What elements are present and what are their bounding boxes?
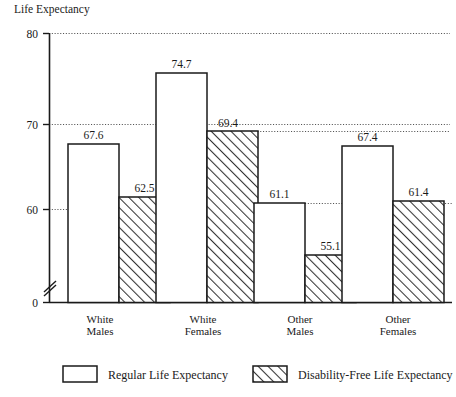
bar-label-white-males-regular: 67.6 bbox=[83, 129, 103, 141]
bar-white-females-regular[interactable] bbox=[156, 73, 207, 303]
bar-label-other-males-regular: 61.1 bbox=[269, 188, 289, 200]
legend-swatch-disability-free bbox=[253, 366, 287, 382]
bar-label-white-females-disability-free: 69.4 bbox=[218, 117, 238, 129]
category-label-line1-other-males: Other bbox=[287, 313, 312, 325]
x-axis-category-other-males: Other Males bbox=[287, 313, 314, 337]
bar-other-females-disability-free[interactable] bbox=[393, 201, 444, 303]
chart-canvas: Life Expectancy 80 70 60 0 67.6 bbox=[0, 0, 456, 397]
legend: Regular Life Expectancy Disability-Free … bbox=[63, 366, 453, 382]
x-axis-category-white-males: White Males bbox=[87, 313, 114, 337]
x-axis-category-white-females: White Females bbox=[185, 313, 222, 337]
bar-label-white-males-disability-free: 62.5 bbox=[134, 182, 154, 194]
legend-label-regular: Regular Life Expectancy bbox=[108, 368, 228, 382]
bar-other-males-regular[interactable] bbox=[254, 203, 305, 303]
category-label-line2-white-males: Males bbox=[87, 325, 114, 337]
bar-label-other-females-regular: 67.4 bbox=[357, 131, 377, 143]
y-tick-label-80: 80 bbox=[27, 28, 39, 40]
legend-swatch-regular bbox=[63, 366, 97, 382]
legend-entry-regular[interactable]: Regular Life Expectancy bbox=[63, 366, 228, 382]
category-label-line2-white-females: Females bbox=[185, 325, 222, 337]
bar-white-males-regular[interactable] bbox=[68, 144, 119, 303]
y-tick-label-70: 70 bbox=[27, 119, 39, 131]
category-label-line2-other-females: Females bbox=[380, 325, 417, 337]
bar-white-females-disability-free[interactable] bbox=[207, 131, 258, 303]
bar-other-females-regular[interactable] bbox=[342, 146, 393, 303]
life-expectancy-bar-chart: Life Expectancy 80 70 60 0 67.6 bbox=[0, 0, 456, 397]
bar-label-other-males-disability-free: 55.1 bbox=[320, 240, 340, 252]
category-label-line2-other-males: Males bbox=[287, 325, 314, 337]
y-tick-label-60: 60 bbox=[27, 204, 39, 216]
category-label-line1-other-females: Other bbox=[385, 313, 410, 325]
bar-label-white-females-regular: 74.7 bbox=[171, 58, 191, 70]
y-axis-title: Life Expectancy bbox=[14, 3, 90, 16]
y-tick-label-0: 0 bbox=[32, 297, 38, 309]
category-label-line1-white-males: White bbox=[87, 313, 114, 325]
legend-entry-disability-free[interactable]: Disability-Free Life Expectancy bbox=[253, 366, 453, 382]
category-label-line1-white-females: White bbox=[190, 313, 217, 325]
bar-label-other-females-disability-free: 61.4 bbox=[408, 186, 428, 198]
legend-label-disability-free: Disability-Free Life Expectancy bbox=[298, 368, 453, 382]
